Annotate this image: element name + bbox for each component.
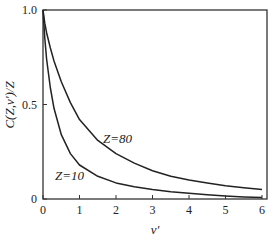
y-tick-label: 0 xyxy=(31,192,37,206)
x-tick-label: 4 xyxy=(186,203,192,217)
curve-z-80 xyxy=(43,10,262,190)
x-tick-label: 3 xyxy=(150,203,156,217)
x-tick-label: 6 xyxy=(259,203,265,217)
x-axis-label: v' xyxy=(151,222,160,237)
x-tick-label: 5 xyxy=(223,203,229,217)
x-tick-label: 0 xyxy=(40,203,46,217)
chart: 0123456 00.51.0 v' C(Z,v')/Z Z=80 Z=10 xyxy=(0,0,275,243)
annotation-z10: Z=10 xyxy=(55,168,85,183)
x-tick-label: 2 xyxy=(113,203,119,217)
annotation-z80: Z=80 xyxy=(103,131,133,146)
y-tick-label: 0.5 xyxy=(22,98,37,112)
y-axis-label: C(Z,v')/Z xyxy=(2,81,17,129)
x-tick-label: 1 xyxy=(77,203,83,217)
x-axis-ticks: 0123456 xyxy=(40,195,265,217)
y-tick-label: 1.0 xyxy=(22,3,37,17)
